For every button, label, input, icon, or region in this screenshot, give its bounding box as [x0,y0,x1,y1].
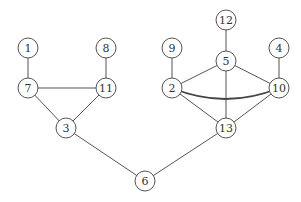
node-label: 2 [169,82,176,95]
node-4: 4 [269,38,289,58]
node-12: 12 [216,10,236,30]
node-label: 13 [219,122,233,135]
node-11: 11 [96,78,116,98]
node-label: 7 [25,82,32,95]
node-13: 13 [216,118,236,138]
node-9: 9 [162,38,182,58]
node-label: 5 [223,55,230,68]
node-10: 10 [269,78,289,98]
node-label: 8 [103,42,110,55]
node-5: 5 [216,51,236,71]
graph-diagram: 18711312954210136 [0,0,301,202]
node-label: 9 [169,42,176,55]
node-label: 4 [276,42,283,55]
node-label: 3 [63,122,70,135]
node-6: 6 [135,171,155,191]
node-label: 11 [99,82,113,95]
edges-layer [28,20,279,181]
edge-13-6 [145,128,226,181]
edge-3-6 [66,128,145,181]
node-label: 10 [272,82,286,95]
node-7: 7 [18,78,38,98]
node-2: 2 [162,78,182,98]
node-8: 8 [96,38,116,58]
node-label: 12 [219,14,233,27]
node-1: 1 [18,38,38,58]
node-3: 3 [56,118,76,138]
node-label: 6 [142,175,149,188]
node-label: 1 [25,42,32,55]
nodes-layer: 18711312954210136 [18,10,289,191]
